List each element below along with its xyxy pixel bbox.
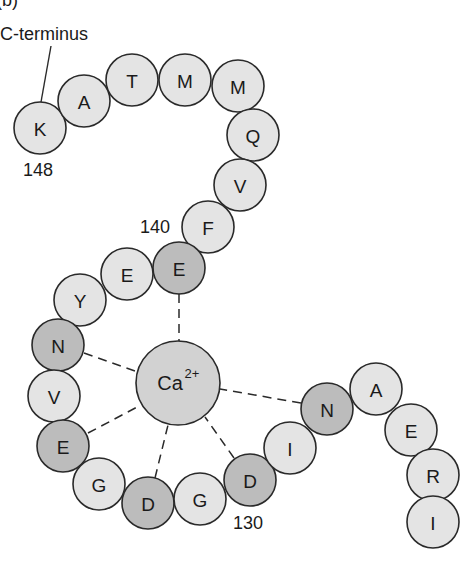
residue: K [14, 102, 66, 154]
residue: R [407, 449, 459, 501]
residue-letter: R [426, 466, 440, 487]
residue-letter: I [287, 439, 292, 460]
residue-letter: G [92, 475, 107, 496]
residue-letter: E [173, 259, 186, 280]
residue-binding: N [301, 383, 353, 435]
residue-letter: V [48, 387, 61, 408]
residue: E [101, 248, 153, 300]
residue-letter: D [243, 471, 257, 492]
residue-letter: E [405, 421, 418, 442]
bond-n-ca [84, 353, 138, 372]
residue: T [106, 54, 158, 106]
c-terminus-leader-line [41, 46, 51, 102]
residue-letter: I [430, 513, 435, 534]
residue-letter: T [126, 71, 138, 92]
residue: Y [54, 274, 106, 326]
ion-symbol: Ca [157, 372, 183, 394]
residue-letter: K [34, 119, 47, 140]
residue-letter: F [202, 218, 214, 239]
c-terminus-label: C-terminus [0, 24, 88, 44]
residue: A [350, 363, 402, 415]
residue-letter: E [57, 437, 70, 458]
residue-letter: M [230, 77, 246, 98]
residue-letter: E [121, 265, 134, 286]
residue-letter: V [234, 176, 247, 197]
residue-letter: M [177, 71, 193, 92]
residue: M [212, 60, 264, 112]
residue: Q [227, 109, 279, 161]
residue: G [73, 458, 125, 510]
position-148-label: 148 [23, 160, 53, 180]
bond-d2-ca [205, 417, 234, 458]
position-130-label: 130 [233, 513, 263, 533]
residue-binding: N [32, 319, 84, 371]
residue: V [214, 159, 266, 211]
bond-e2-ca [88, 405, 141, 433]
bond-d-ca [155, 425, 168, 478]
calcium-ion: Ca 2+ [136, 341, 220, 425]
residue: E [385, 404, 437, 456]
residue: I [407, 496, 459, 548]
residue-letter: Q [246, 126, 261, 147]
residue-letter: N [320, 400, 334, 421]
position-140-label: 140 [140, 217, 170, 237]
residue-letter: A [370, 380, 383, 401]
residue: G [174, 473, 226, 525]
ion-charge: 2+ [185, 366, 200, 381]
residue: A [58, 75, 110, 127]
residue-letter: G [193, 490, 208, 511]
residue-binding: D [122, 477, 174, 529]
residue-letter: N [51, 336, 65, 357]
calcium-binding-loop-diagram: (b) C-terminus KATMMQVFEEYNVEGDGDINAERI … [0, 0, 468, 562]
residue-letter: D [141, 494, 155, 515]
residue-letter: Y [74, 291, 87, 312]
residue-chain: KATMMQVFEEYNVEGDGDINAERI [14, 54, 459, 548]
panel-label: (b) [0, 0, 18, 10]
residue: M [159, 54, 211, 106]
bond-n2-ca [220, 389, 301, 403]
residue-letter: A [78, 92, 91, 113]
residue: V [28, 370, 80, 422]
residue-binding: E [153, 242, 205, 294]
residue: I [264, 422, 316, 474]
